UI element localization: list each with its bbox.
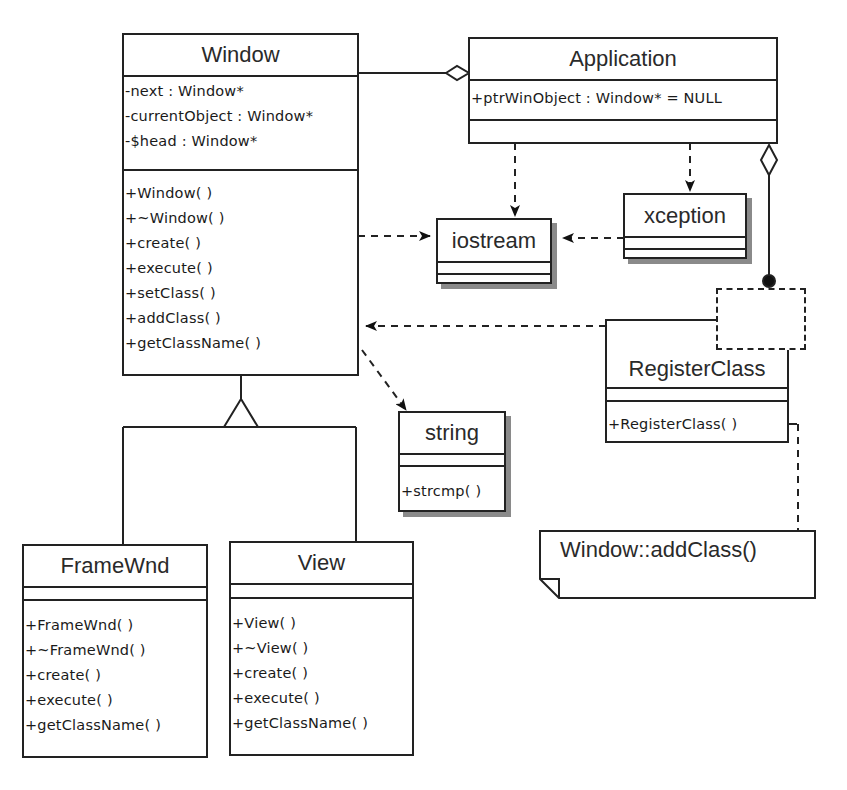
operation-compartment: +FrameWnd( ) +~FrameWnd( ) +create( ) +e… bbox=[24, 601, 206, 740]
aggregation-diamond-icon bbox=[446, 66, 469, 80]
operation: +create( ) bbox=[125, 231, 356, 256]
template-parameter-box bbox=[716, 288, 806, 350]
operation-compartment bbox=[438, 275, 550, 279]
class-name: string bbox=[400, 413, 504, 455]
attribute: -next : Window* bbox=[125, 79, 356, 104]
class-window[interactable]: Window -next : Window* -currentObject : … bbox=[122, 33, 359, 376]
attribute-compartment bbox=[231, 585, 412, 599]
operation: +getClassName( ) bbox=[232, 711, 411, 736]
generalization-triangle-icon bbox=[224, 399, 258, 427]
operation: +execute( ) bbox=[25, 688, 205, 713]
class-view[interactable]: View +View( ) +~View( ) +create( ) +exec… bbox=[229, 541, 414, 756]
attribute-compartment bbox=[400, 455, 504, 467]
attribute-compartment bbox=[625, 238, 745, 250]
operation: +execute( ) bbox=[125, 256, 356, 281]
operation: +View( ) bbox=[232, 611, 411, 636]
class-name: Window bbox=[124, 35, 357, 77]
attribute-compartment bbox=[438, 263, 550, 275]
operation-compartment: +strcmp( ) bbox=[400, 467, 504, 506]
operation: +FrameWnd( ) bbox=[25, 613, 205, 638]
operation-compartment: +View( ) +~View( ) +create( ) +execute( … bbox=[231, 599, 412, 738]
attribute: -currentObject : Window* bbox=[125, 104, 356, 129]
operation-compartment: +RegisterClass( ) bbox=[607, 402, 787, 439]
operation: +RegisterClass( ) bbox=[608, 412, 786, 437]
class-iostream[interactable]: iostream bbox=[436, 218, 552, 284]
operation: +~View( ) bbox=[232, 636, 411, 661]
operation: +getClassName( ) bbox=[25, 713, 205, 738]
class-xception[interactable]: xception bbox=[623, 193, 747, 259]
class-application[interactable]: Application +ptrWinObject : Window* = NU… bbox=[468, 37, 778, 144]
dependency-window-string bbox=[362, 350, 406, 410]
attribute: -$head : Window* bbox=[125, 129, 356, 154]
operation: +strcmp( ) bbox=[401, 479, 503, 504]
class-name: xception bbox=[625, 195, 745, 238]
aggregation-diamond-icon bbox=[761, 145, 777, 175]
attribute-compartment: +ptrWinObject : Window* = NULL bbox=[470, 81, 776, 121]
attribute-compartment bbox=[607, 389, 787, 402]
operation: +execute( ) bbox=[232, 686, 411, 711]
operation: +getClassName( ) bbox=[125, 331, 356, 356]
class-name: FrameWnd bbox=[24, 546, 206, 588]
attribute-compartment: -next : Window* -currentObject : Window*… bbox=[124, 77, 357, 171]
operation-compartment: +Window( ) +~Window( ) +create( ) +execu… bbox=[124, 171, 357, 358]
note-text[interactable]: Window::addClass() bbox=[560, 537, 757, 563]
operation-compartment bbox=[625, 250, 745, 254]
attribute: +ptrWinObject : Window* = NULL bbox=[471, 86, 775, 111]
class-name: View bbox=[231, 543, 412, 585]
operation: +Window( ) bbox=[125, 181, 356, 206]
class-name: Application bbox=[470, 39, 776, 81]
class-string[interactable]: string +strcmp( ) bbox=[398, 411, 506, 512]
class-framewnd[interactable]: FrameWnd +FrameWnd( ) +~FrameWnd( ) +cre… bbox=[22, 544, 208, 758]
attribute-compartment bbox=[24, 588, 206, 601]
operation: +addClass( ) bbox=[125, 306, 356, 331]
operation: +setClass( ) bbox=[125, 281, 356, 306]
operation: +create( ) bbox=[25, 663, 205, 688]
operation: +~FrameWnd( ) bbox=[25, 638, 205, 663]
operation: +~Window( ) bbox=[125, 206, 356, 231]
operation-compartment bbox=[470, 121, 776, 125]
association-end-dot-icon bbox=[763, 275, 775, 287]
operation: +create( ) bbox=[232, 661, 411, 686]
class-name: iostream bbox=[438, 220, 550, 263]
